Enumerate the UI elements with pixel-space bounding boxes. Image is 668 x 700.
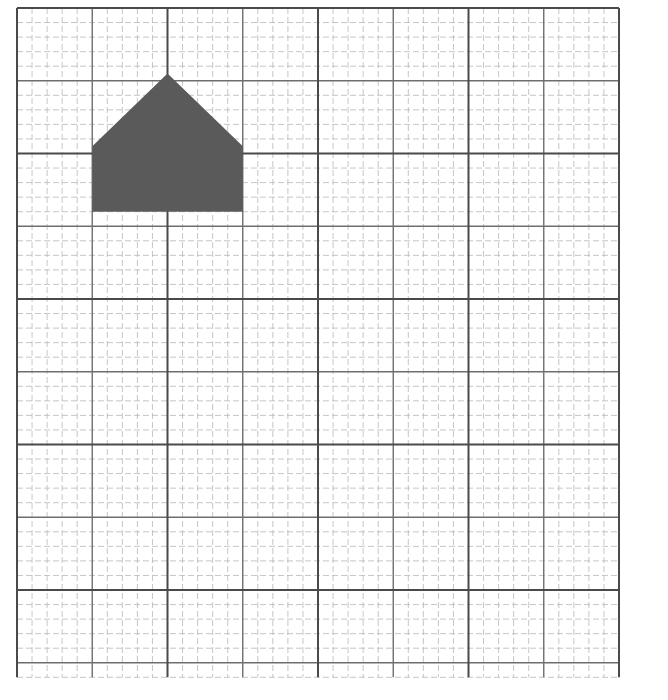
grid-paper-figure xyxy=(0,0,668,700)
shaded-pentagon-shape xyxy=(92,74,243,212)
